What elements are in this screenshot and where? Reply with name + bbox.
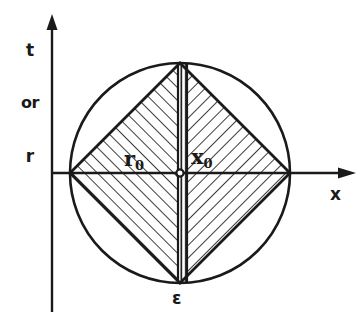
position-label-subscript: 0 [204,156,213,171]
vertical-axis-label-line-1: t [12,42,48,60]
horizontal-axis-label: x [330,186,341,204]
radius-label: r0 [124,146,144,173]
origin-marker [176,169,183,176]
figure-container: t or r x r0 x0 ε [0,0,362,322]
vertical-axis-arrowhead [47,14,58,30]
epsilon-label: ε [172,288,181,308]
position-label-base: x [191,144,204,169]
radius-label-base: r [124,146,135,171]
vertical-axis-label: t or r [12,6,48,201]
vertical-axis-label-line-2: or [12,95,48,112]
position-label: x0 [191,144,213,171]
horizontal-axis-arrowhead [338,168,356,179]
figure-drawing [0,0,362,322]
radius-label-subscript: 0 [135,158,144,173]
vertical-axis-label-line-3: r [12,148,48,166]
